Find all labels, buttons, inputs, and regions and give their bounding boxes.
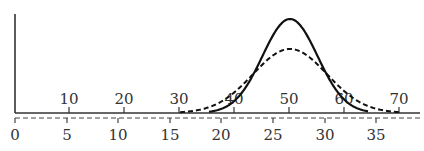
lower-tick-label: 10 — [108, 126, 127, 144]
lower-axis-ticks: 05101520253035 — [10, 118, 385, 144]
lower-tick-label: 35 — [366, 126, 385, 144]
lower-tick-label: 30 — [315, 126, 334, 144]
normal-distribution-chart: 10203040506070 05101520253035 — [0, 0, 424, 151]
upper-tick-label: 10 — [59, 90, 78, 108]
lower-tick-label: 25 — [263, 126, 282, 144]
lower-tick-label: 5 — [62, 126, 72, 144]
upper-tick-label: 70 — [389, 90, 408, 108]
lower-tick-label: 15 — [160, 126, 179, 144]
lower-tick-label: 0 — [10, 126, 20, 144]
upper-tick-label: 20 — [114, 90, 133, 108]
lower-tick-label: 20 — [211, 126, 230, 144]
upper-tick-label: 30 — [169, 90, 188, 108]
upper-tick-label: 50 — [279, 90, 298, 108]
